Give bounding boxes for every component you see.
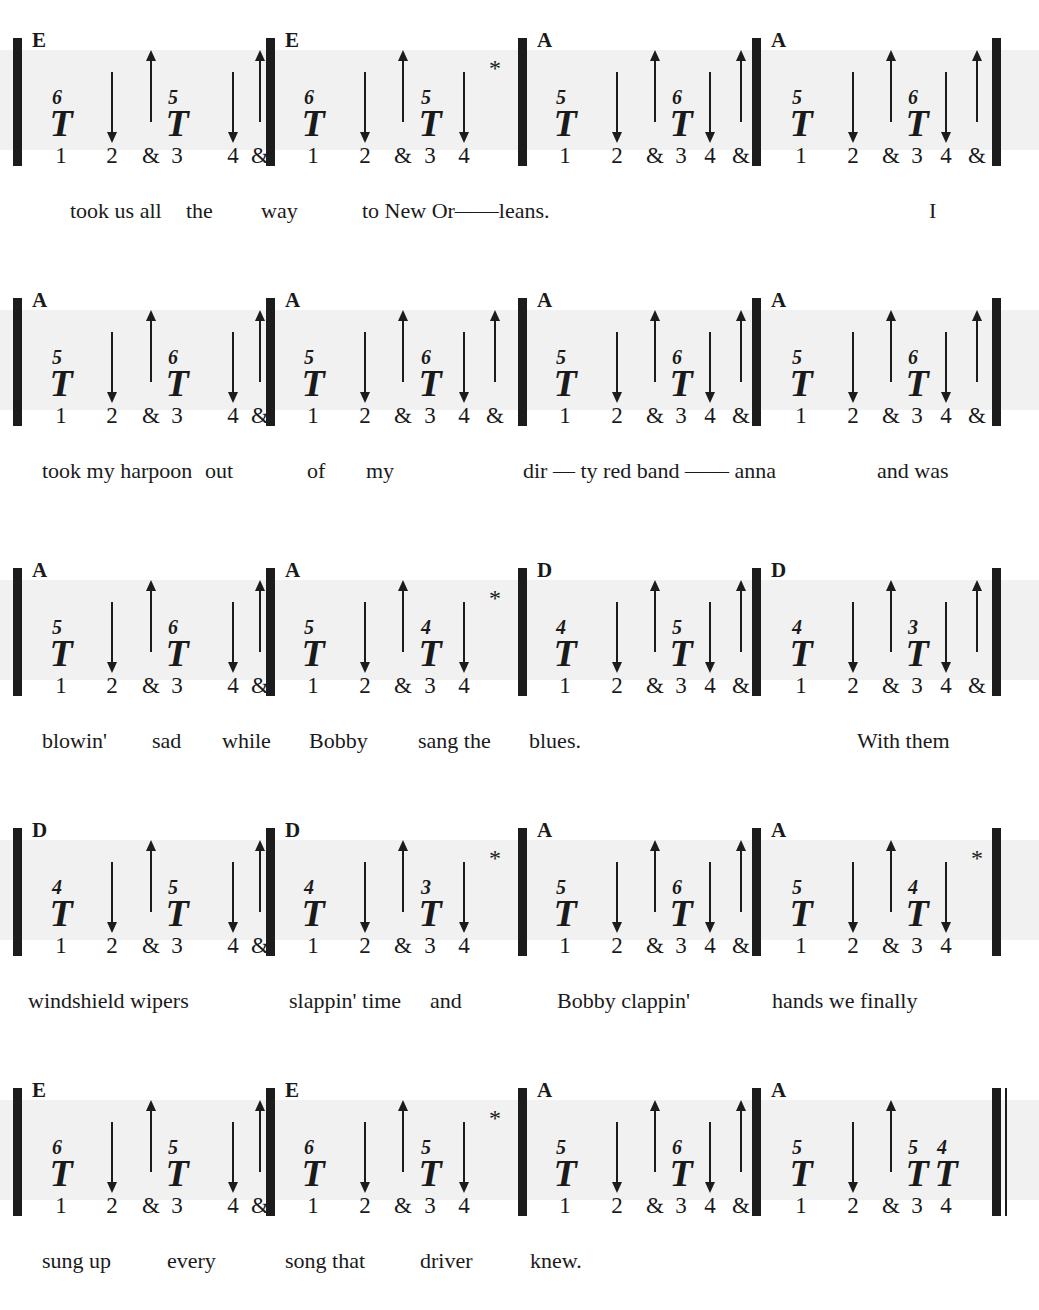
lyric-text: blowin' <box>42 728 107 754</box>
beat-count-label: 2 <box>836 144 870 167</box>
down-arrow-icon <box>709 332 711 394</box>
staff: A5T12&6T34&A5T12&4T34*D4T12&5T34&D4T12&3… <box>0 542 1039 702</box>
up-arrow-icon <box>402 850 404 912</box>
up-arrow-icon <box>259 850 261 912</box>
beat-slot: 4T4 <box>929 1108 963 1220</box>
beat-slot: 5T1 <box>44 588 78 700</box>
up-arrow-icon <box>740 850 742 912</box>
tongue-block-icon: T <box>929 1156 963 1190</box>
beat-count-label: 2 <box>95 674 129 697</box>
up-arrow-icon <box>724 1108 758 1190</box>
beat-count-label: 2 <box>600 674 634 697</box>
beat-count-label: 1 <box>296 404 330 427</box>
down-arrow-icon <box>616 602 618 664</box>
beat-slot: & <box>243 588 277 700</box>
tongue-block-note: 5T <box>160 1108 194 1190</box>
down-arrow-icon <box>852 862 854 924</box>
beat-slot: 4T1 <box>296 848 330 960</box>
chord-symbol: A <box>32 290 48 311</box>
tongue-block-icon: T <box>548 106 582 140</box>
music-system: A5T12&6T34&A5T12&4T34*D4T12&5T34&D4T12&3… <box>0 542 1039 804</box>
staff: A5T12&6T34&A5T12&6T34&A5T12&6T34&A5T12&6… <box>0 272 1039 432</box>
beat-count-label: 1 <box>548 1194 582 1217</box>
down-arrow-icon <box>463 332 465 394</box>
beat-slot: 2 <box>95 58 129 170</box>
down-arrow-icon <box>616 862 618 924</box>
tongue-block-note: 5T <box>784 58 818 140</box>
beat-slot: 6T3 <box>413 318 447 430</box>
down-arrow-icon <box>709 602 711 664</box>
chord-symbol: A <box>771 290 787 311</box>
down-arrow-icon <box>616 1122 618 1184</box>
beat-count-label: 1 <box>44 934 78 957</box>
beat-slot: 2 <box>600 58 634 170</box>
tongue-block-icon: T <box>160 106 194 140</box>
asterisk-icon: * <box>478 1108 512 1128</box>
beat-count-label: 1 <box>296 934 330 957</box>
beat-slot: & <box>243 848 277 960</box>
beat-slot: & <box>478 318 512 430</box>
beat-count-label: 3 <box>413 674 447 697</box>
lyric-text: Bobby <box>309 728 368 754</box>
beat-count-label: 4 <box>693 934 727 957</box>
beat-count-label: & <box>960 404 994 427</box>
beat-count-label: 4 <box>447 674 481 697</box>
chord-symbol: A <box>537 1080 553 1101</box>
beat-count-label: 4 <box>929 1194 963 1217</box>
beat-slot: 2 <box>95 588 129 700</box>
beat-slot: 4 <box>929 848 963 960</box>
tongue-block-note: 6T <box>296 58 330 140</box>
beat-slot: 2 <box>600 318 634 430</box>
beat-count-label: 4 <box>693 144 727 167</box>
tongue-block-note: 4T <box>929 1108 963 1190</box>
down-arrow-icon <box>709 72 711 134</box>
beat-slot: 4 <box>693 588 727 700</box>
beat-slot: 4 <box>693 58 727 170</box>
down-arrow-icon <box>929 848 963 930</box>
beat-count-label: & <box>243 1194 277 1217</box>
down-arrow-icon <box>836 58 870 140</box>
lyric-text: every <box>167 1248 216 1274</box>
down-arrow-icon <box>852 332 854 394</box>
beat-count-label: 2 <box>600 144 634 167</box>
up-arrow-icon <box>243 58 277 140</box>
beat-slot: 2 <box>836 1108 870 1220</box>
down-arrow-icon <box>852 1122 854 1184</box>
tongue-block-note: 3T <box>413 848 447 930</box>
down-arrow-icon <box>348 58 382 140</box>
chord-symbol: A <box>771 820 787 841</box>
tongue-block-icon: T <box>413 106 447 140</box>
beat-slot: 4 <box>929 58 963 170</box>
down-arrow-icon <box>852 602 854 664</box>
beat-slot: 2 <box>836 588 870 700</box>
beat-slot: 4 <box>693 1108 727 1220</box>
down-arrow-icon <box>348 588 382 670</box>
barline-end <box>992 1088 1001 1216</box>
lyric-text: Bobby clappin' <box>557 988 690 1014</box>
lyric-text: and <box>430 988 462 1014</box>
down-arrow-icon <box>232 72 234 134</box>
down-arrow-icon <box>348 1108 382 1190</box>
lyric-text: way <box>261 198 298 224</box>
up-arrow-icon <box>724 58 758 140</box>
chord-symbol: A <box>537 30 553 51</box>
beat-count-label: 3 <box>413 1194 447 1217</box>
up-arrow-icon <box>724 588 758 670</box>
tongue-block-note: 6T <box>296 1108 330 1190</box>
lyric-text: sad <box>152 728 181 754</box>
asterisk-icon: * <box>478 588 512 670</box>
lyric-text: sang the <box>418 728 491 754</box>
beat-slot: 2 <box>836 58 870 170</box>
lyric-text: while <box>222 728 271 754</box>
chord-symbol: E <box>32 30 47 51</box>
down-arrow-icon <box>232 1122 234 1184</box>
chord-symbol: E <box>285 1080 300 1101</box>
down-arrow-icon <box>447 1108 481 1190</box>
lyric-text: dir — ty red band —— anna <box>523 458 776 484</box>
tongue-block-icon: T <box>296 106 330 140</box>
down-arrow-icon <box>600 1108 634 1190</box>
down-arrow-icon <box>836 848 870 930</box>
chord-symbol: A <box>285 290 301 311</box>
beat-count-label: 2 <box>95 404 129 427</box>
tongue-block-icon: T <box>44 366 78 400</box>
